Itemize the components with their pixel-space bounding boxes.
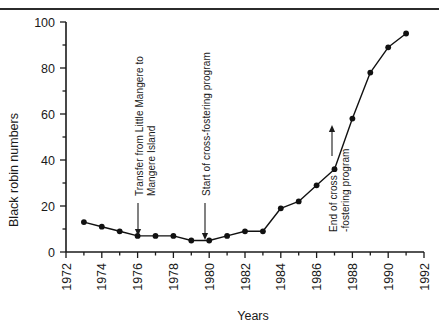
- x-axis-ticks: [66, 252, 424, 258]
- data-point-marker: [117, 228, 123, 234]
- y-axis-ticks: [60, 22, 66, 252]
- x-tick-label: 1976: [131, 263, 145, 291]
- x-tick-label: 1982: [239, 263, 253, 291]
- x-axis-title: Years: [237, 309, 269, 323]
- data-point-marker: [367, 70, 373, 76]
- annotation-arrow-head: [329, 125, 335, 132]
- y-tick-label: 100: [34, 16, 55, 30]
- data-point-marker: [385, 44, 391, 50]
- x-tick-label: 1980: [203, 263, 217, 291]
- data-point-marker: [242, 228, 248, 234]
- data-point-marker: [296, 199, 302, 205]
- y-axis-tick-labels: 020406080100: [34, 16, 55, 260]
- y-tick-label: 0: [48, 246, 55, 260]
- y-axis-title: Black robin numbers: [7, 113, 21, 227]
- annotation-text: End of cross: [328, 175, 339, 232]
- data-point-marker: [171, 233, 177, 239]
- x-tick-label: 1974: [95, 263, 109, 291]
- y-tick-label: 60: [41, 108, 55, 122]
- data-point-marker: [153, 233, 159, 239]
- data-point-marker: [188, 238, 194, 244]
- x-tick-label: 1972: [60, 263, 74, 291]
- annotation-text: Transfer from Little Mangere to: [134, 56, 145, 196]
- data-point-marker: [99, 224, 105, 230]
- figure-container: Black robin numbers Years 020406080100 1…: [0, 0, 439, 327]
- x-tick-label: 1978: [167, 263, 181, 291]
- annotation-text: Mangere Island: [146, 126, 157, 196]
- annotation-transfer: Transfer from Little Mangere toMangere I…: [134, 56, 157, 236]
- annotation-text: Start of cross-fostering program: [201, 52, 212, 196]
- x-tick-label: 1990: [382, 263, 396, 291]
- black-robin-population-chart: Black robin numbers Years 020406080100 1…: [0, 0, 439, 327]
- x-tick-label: 1984: [274, 263, 288, 291]
- series-polyline: [84, 34, 406, 241]
- data-point-marker: [278, 205, 284, 211]
- chart-annotations: Transfer from Little Mangere toMangere I…: [134, 52, 351, 240]
- x-tick-label: 1992: [418, 263, 432, 291]
- data-series-points: [81, 31, 409, 244]
- annotation-text: -fostering program: [340, 149, 351, 233]
- data-point-marker: [403, 31, 409, 37]
- annotation-end-cross-fostering: End of cross-fostering program: [328, 125, 351, 232]
- y-tick-label: 20: [41, 200, 55, 214]
- data-point-marker: [224, 233, 230, 239]
- data-point-marker: [206, 238, 212, 244]
- data-point-marker: [81, 219, 87, 225]
- x-tick-label: 1988: [346, 263, 360, 291]
- y-tick-label: 40: [41, 154, 55, 168]
- x-axis-tick-labels: 1972197419761978198019821984198619881990…: [60, 263, 432, 291]
- data-point-marker: [260, 228, 266, 234]
- data-point-marker: [332, 166, 338, 172]
- x-tick-label: 1986: [310, 263, 324, 291]
- data-point-marker: [350, 116, 356, 122]
- data-point-marker: [314, 182, 320, 188]
- annotation-start-cross-fostering: Start of cross-fostering program: [201, 52, 212, 240]
- data-series-line: [84, 34, 406, 241]
- y-tick-label: 80: [41, 62, 55, 76]
